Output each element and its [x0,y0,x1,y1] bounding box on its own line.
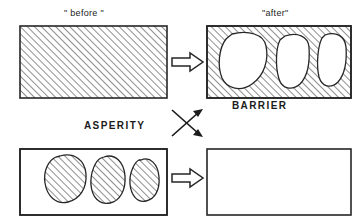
diagram-root: " before " "after" BARRIER ASPERITY [0,0,364,224]
block-arrow-shape [172,169,203,187]
label-before: " before " [64,8,104,18]
panel-after [207,26,351,98]
panel-before [20,26,167,98]
panel-asperity [20,148,167,215]
panel-empty [207,149,351,215]
label-barrier: BARRIER [232,100,287,111]
label-asperity: ASPERITY [84,120,145,131]
arrow-down-right-shaft [172,110,199,134]
block-arrow-shape [172,53,203,71]
arrow-up-right-shaft [172,112,199,136]
transform-arrow-bottom [172,169,203,187]
label-after: "after" [262,8,289,18]
transform-arrow-top [172,53,203,71]
diagram-canvas [0,0,364,224]
before-rect [20,26,167,98]
crossing-arrows [172,109,203,137]
empty-rect [207,149,351,215]
